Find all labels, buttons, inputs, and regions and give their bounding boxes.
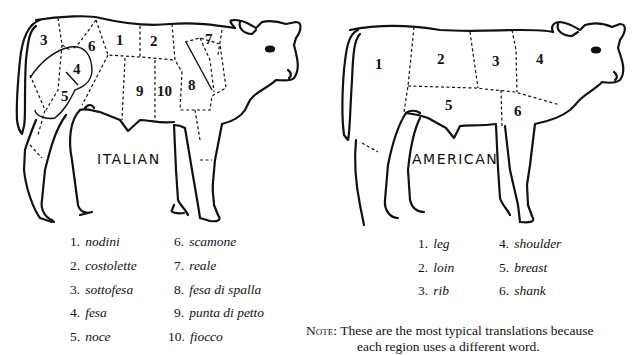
legend-item: 5.breast — [499, 260, 547, 276]
legend-item: 1.nodini — [70, 234, 120, 250]
legend-item: 2.costolette — [70, 258, 137, 274]
legend-item: 6.shank — [499, 283, 546, 299]
italian-label: ITALIAN — [97, 151, 161, 167]
legend-item: 7.reale — [174, 258, 216, 274]
region-4-number: 4 — [536, 51, 544, 68]
legend-item: 5.noce — [70, 329, 111, 345]
legend-item: 3.sottofesa — [70, 282, 133, 298]
region-10-number: 10 — [157, 83, 172, 100]
legend-item: 8.fesa di spalla — [174, 282, 261, 298]
region-2-number: 2 — [150, 33, 158, 50]
region-3-number: 3 — [492, 53, 500, 70]
legend-item: 1.leg — [418, 236, 450, 252]
region-7-number: 7 — [205, 31, 213, 48]
legend-item: 9.punta di petto — [174, 305, 264, 321]
region-8-number: 8 — [188, 77, 196, 94]
region-6-number: 6 — [88, 38, 96, 55]
legend-item: 4.shoulder — [499, 236, 561, 252]
region-5-number: 5 — [61, 88, 69, 105]
note-line-1: These are the most typical translations … — [340, 323, 593, 338]
legend-item: 4.fesa — [70, 305, 107, 321]
legend-item: 3.rib — [418, 283, 449, 299]
american-label: AMERICAN — [412, 151, 498, 167]
region-4-number: 4 — [73, 61, 81, 78]
region-6-number: 6 — [514, 103, 522, 120]
region-5-number: 5 — [445, 97, 453, 114]
note-label: Note: — [306, 323, 337, 338]
legend-item: 10.fiocco — [168, 329, 223, 345]
legend-item: 6.scamone — [174, 234, 236, 250]
american-calf-outline — [320, 0, 635, 230]
translation-note: Note: These are the most typical transla… — [306, 323, 635, 355]
region-2-number: 2 — [437, 51, 445, 68]
region-1-number: 1 — [116, 32, 124, 49]
american-veal-cut-diagram: 1 2 3 4 5 6 AMERICAN — [320, 0, 635, 230]
region-3-number: 3 — [40, 32, 48, 49]
region-1-number: 1 — [375, 56, 383, 73]
note-line-2: each region uses a different word. — [306, 339, 635, 355]
italian-veal-cut-diagram: 3 6 1 2 7 4 5 9 10 8 ITALIAN — [0, 0, 320, 230]
italian-calf-outline — [0, 0, 320, 230]
legend-item: 2.loin — [418, 260, 454, 276]
region-9-number: 9 — [136, 83, 144, 100]
